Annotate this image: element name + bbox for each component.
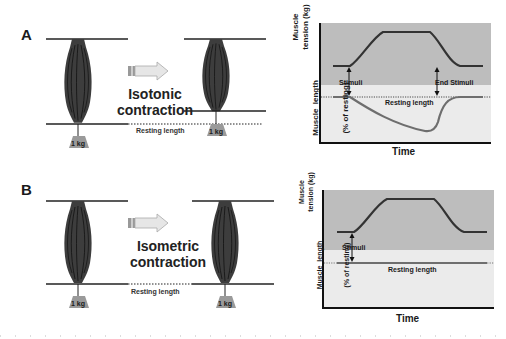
chart-b-ylabel-bottom: Muscle length (% of resting): [297, 230, 360, 300]
chart-b-xlabel: Time: [396, 313, 419, 324]
contraction-label-line2: contraction: [105, 102, 205, 118]
ylabel-line: tension (kg): [301, 0, 311, 57]
stimuli-label: Stimuli: [339, 79, 362, 86]
weight-label: 1 kg: [71, 140, 85, 147]
chart-a-ylabel-top: Muscle tension (kg): [291, 0, 311, 57]
contraction-label-line1: Isometric: [118, 238, 218, 254]
contraction-label-a: Isotonic contraction: [105, 86, 205, 118]
arrow-right-icon: [128, 214, 168, 232]
diagram-canvas: [0, 0, 506, 339]
end-stimuli-label: End Stimuli: [435, 79, 474, 86]
resting-length-label-a: Resting length: [136, 127, 185, 134]
ylabel-line: Muscle: [297, 162, 306, 222]
ylabel-line: Muscle length: [315, 230, 324, 300]
ylabel-line: (% of resting): [342, 230, 351, 300]
weight-label: 1 kg: [209, 128, 223, 135]
contraction-label-line1: Isotonic: [105, 86, 205, 102]
resting-length-chart-label: Resting length: [388, 266, 437, 273]
stimuli-label: Stimuli: [342, 244, 365, 251]
chart-a-xlabel: Time: [392, 146, 415, 157]
weight-label: 1 kg: [218, 300, 232, 307]
contraction-label-line2: contraction: [118, 254, 218, 270]
ylabel-line: Muscle: [291, 0, 301, 57]
arrow-right-icon: [128, 62, 168, 80]
resting-length-label-b: Resting length: [131, 288, 180, 295]
ylabel-line: tension (kg): [306, 162, 315, 222]
panel-b-left-muscle: [46, 201, 128, 308]
ylabel-line: Muscle length: [311, 73, 321, 143]
resting-length-chart-label: Resting length: [385, 99, 434, 106]
chart-b-ylabel-top: Muscle tension (kg): [297, 162, 315, 222]
weight-label: 1 kg: [71, 300, 85, 307]
contraction-label-b: Isometric contraction: [118, 238, 218, 270]
